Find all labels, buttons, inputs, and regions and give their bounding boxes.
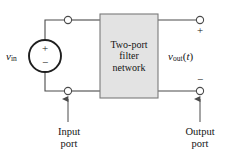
- output-bottom-terminal: [196, 87, 203, 94]
- output-top-terminal: [196, 16, 203, 23]
- block-label: Two-port filter network: [100, 14, 158, 98]
- source-plus-sign: +: [39, 42, 51, 54]
- input-voltage-label: vin: [6, 50, 17, 64]
- input-voltage-subscript: in: [11, 54, 17, 63]
- output-port-line2: port: [174, 138, 225, 150]
- input-port-line1: Input: [43, 126, 95, 138]
- output-voltage-label: vout(t): [168, 50, 193, 64]
- output-plus-sign: +: [194, 24, 206, 36]
- output-minus-sign: −: [194, 73, 206, 85]
- block-label-line1: Two-port: [110, 39, 147, 50]
- output-voltage-subscript: out: [173, 54, 183, 63]
- input-bottom-wire: [45, 72, 100, 91]
- block-label-line3: network: [113, 62, 146, 73]
- source-minus-sign: −: [39, 56, 51, 68]
- block-label-line2: filter: [119, 50, 138, 61]
- input-port-line2: port: [43, 138, 95, 150]
- input-port-annotation: Input port: [43, 126, 95, 150]
- input-bottom-terminal: [64, 87, 71, 94]
- output-voltage-paren-close: ): [190, 50, 194, 62]
- input-top-terminal: [64, 16, 71, 23]
- input-top-wire: [45, 20, 100, 40]
- circuit-diagram: + − vin Two-port filter network + − vout…: [0, 0, 225, 163]
- output-port-line1: Output: [174, 126, 225, 138]
- output-port-annotation: Output port: [174, 126, 225, 150]
